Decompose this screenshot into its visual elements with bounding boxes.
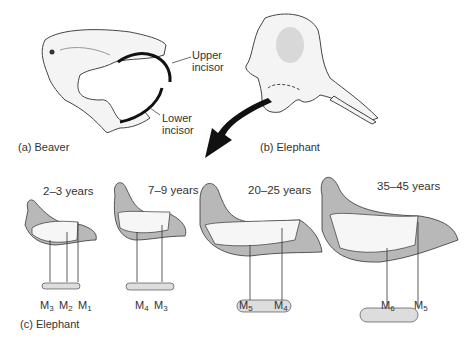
upper-incisor-label: Upper incisor (192, 49, 224, 73)
jaw-stage-1 (25, 200, 96, 289)
molar-label: M5 (414, 299, 428, 313)
diagram-canvas (0, 0, 470, 341)
caption-elephant-b: (b) Elephant (260, 141, 320, 153)
caption-beaver: (a) Beaver (18, 141, 69, 153)
molar-label: M5 (239, 299, 253, 313)
jaw-stage-2 (114, 183, 185, 290)
caption-elephant-c: (c) Elephant (20, 318, 79, 330)
molar-label: M4 (135, 299, 149, 313)
upper-label-line1: Upper (192, 49, 224, 61)
molar-label: M1 (78, 299, 92, 313)
molar-label: M6 (381, 299, 395, 313)
age-label-stage-1: 2–3 years (43, 185, 94, 197)
age-label-stage-4: 35–45 years (377, 180, 440, 192)
elephant-skull (246, 14, 378, 124)
beaver-skull (42, 30, 166, 133)
molar-label: M4 (274, 299, 288, 313)
lower-label-line2: incisor (162, 124, 194, 136)
age-label-stage-2: 7–9 years (148, 184, 199, 196)
lower-incisor-label: Lower incisor (162, 112, 194, 136)
jaw-stage-3 (200, 183, 322, 312)
molar-label: M3 (154, 299, 168, 313)
molar-label: M2 (59, 299, 73, 313)
age-label-stage-3: 20–25 years (248, 184, 311, 196)
molar-label: M3 (40, 299, 54, 313)
upper-label-line2: incisor (192, 61, 224, 73)
lower-label-line1: Lower (162, 112, 194, 124)
